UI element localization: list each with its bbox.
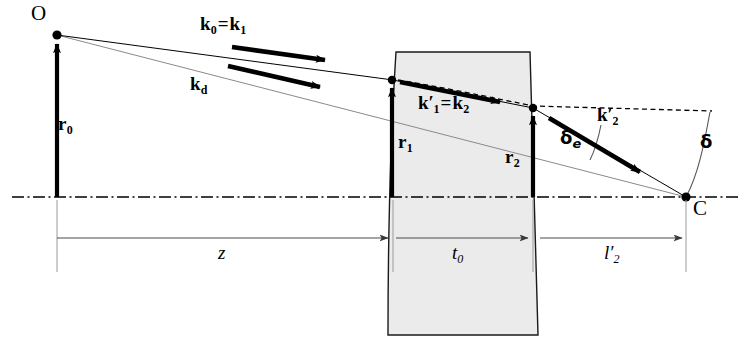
k0k1-equals: = — [217, 13, 230, 34]
point-label-C: C — [693, 198, 707, 219]
vector-label-r1: r1 — [398, 132, 413, 154]
kd-vector-arrow — [228, 66, 320, 87]
diagram-canvas — [0, 0, 747, 359]
chief-ray — [57, 35, 686, 197]
k2-sub: 2 — [463, 102, 469, 116]
delta-angle-arc — [686, 112, 710, 197]
optics-diagram: O C k0=k1 kd k′1=k2 k′2 r0 r1 r2 δe δ z … — [0, 0, 747, 359]
delta-e-sub: e — [572, 136, 581, 151]
angle-label-delta-e: δe — [560, 129, 581, 150]
vector-label-kd: kd — [190, 74, 207, 96]
k2p-sub: 2 — [612, 114, 618, 128]
z-text: z — [218, 242, 225, 263]
dimension-label-l2prime: l′2 — [604, 243, 619, 265]
kd-sub: d — [201, 83, 208, 97]
vector-label-r0: r0 — [58, 114, 73, 136]
k0-base: k — [200, 13, 211, 34]
point-O-dot — [52, 30, 61, 39]
k1-sub: 1 — [240, 23, 246, 37]
r0-sub: 0 — [66, 123, 72, 137]
k1p-sub: 1 — [433, 102, 439, 116]
point-P2-dot — [529, 104, 537, 112]
vector-label-k2prime: k′2 — [597, 105, 619, 127]
k2-base: k — [452, 92, 463, 113]
vector-label-k1prime-k2: k′1=k2 — [418, 93, 469, 115]
dimension-label-z: z — [218, 243, 225, 262]
k1p-base: k — [418, 92, 429, 113]
l2p-sub: 2 — [613, 252, 619, 266]
dimension-label-t0: t0 — [452, 243, 463, 265]
delta-glyph: δ — [700, 131, 712, 152]
incident-ray — [57, 35, 393, 80]
k1-base: k — [230, 13, 241, 34]
angle-label-delta: δ — [700, 133, 712, 151]
t0-sub: 0 — [457, 252, 463, 266]
kd-base: k — [190, 73, 201, 94]
point-P1-dot — [388, 76, 396, 84]
k0-k1-vector-arrow — [232, 47, 325, 60]
r1-sub: 1 — [406, 141, 412, 155]
point-label-O: O — [31, 3, 46, 24]
k1pk2-equals: = — [440, 92, 453, 113]
k2p-base: k — [597, 104, 608, 125]
vector-label-r2: r2 — [505, 147, 520, 169]
r2-sub: 2 — [513, 156, 519, 170]
vector-label-k0-k1: k0=k1 — [200, 14, 246, 36]
k0-sub: 0 — [211, 23, 217, 37]
delta-e-glyph: δ — [560, 127, 572, 148]
